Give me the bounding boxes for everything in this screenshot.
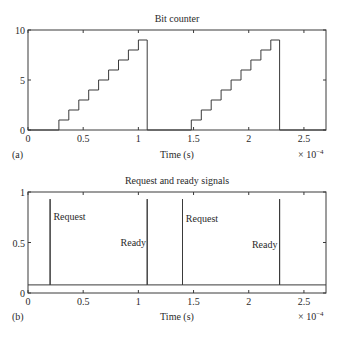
figure: Bit counter 00.511.522.50510 (a) Time (s…: [0, 0, 343, 339]
x-multiplier-exponent: −4: [316, 148, 324, 156]
plot-frame: [28, 30, 326, 130]
y-tick-label: 0: [20, 288, 25, 299]
y-tick-label: 1: [20, 187, 25, 198]
chart-request-ready: Request and ready signals 00.511.522.500…: [12, 175, 326, 323]
x-tick-label: 0: [26, 296, 31, 307]
y-tick-label: 5: [20, 75, 25, 86]
chart-bit-counter: Bit counter 00.511.522.50510 (a) Time (s…: [12, 13, 326, 161]
panel-label: (b): [12, 311, 24, 323]
x-axis-label: Time (s): [160, 311, 194, 323]
ticks: [28, 192, 326, 293]
y-tick-label: 0: [20, 125, 25, 136]
x-multiplier-base: × 10: [298, 311, 316, 322]
ticks: [28, 30, 326, 130]
x-axis-label: Time (s): [160, 149, 194, 161]
x-tick-label: 1.5: [187, 296, 200, 307]
y-tick-label: 10: [15, 25, 25, 36]
x-tick-label: 2.5: [298, 133, 311, 144]
panel-label: (a): [12, 149, 23, 161]
annotation-label: Request: [53, 211, 85, 222]
annotations: RequestReadyRequestReady: [53, 211, 277, 249]
y-tick-label: 0.5: [13, 238, 26, 249]
chart-title: Request and ready signals: [125, 175, 229, 186]
x-tick-label: 2: [246, 296, 251, 307]
x-tick-label: 2: [246, 133, 251, 144]
x-tick-label: 1: [136, 133, 141, 144]
x-tick-label: 0.5: [77, 133, 90, 144]
series-line: [28, 40, 326, 130]
x-tick-label: 0: [26, 133, 31, 144]
x-tick-label: 2.5: [298, 296, 311, 307]
annotation-label: Request: [186, 213, 218, 224]
x-tick-label: 1: [136, 296, 141, 307]
x-multiplier: × 10−4: [298, 310, 324, 322]
x-tick-label: 1.5: [187, 133, 200, 144]
x-multiplier-base: × 10: [298, 149, 316, 160]
annotation-label: Ready: [252, 239, 278, 250]
x-multiplier: × 10−4: [298, 148, 324, 160]
plot-frame: [28, 192, 326, 293]
x-tick-label: 0.5: [77, 296, 90, 307]
x-multiplier-exponent: −4: [316, 310, 324, 318]
annotation-label: Ready: [121, 237, 147, 248]
chart-title: Bit counter: [155, 13, 200, 24]
